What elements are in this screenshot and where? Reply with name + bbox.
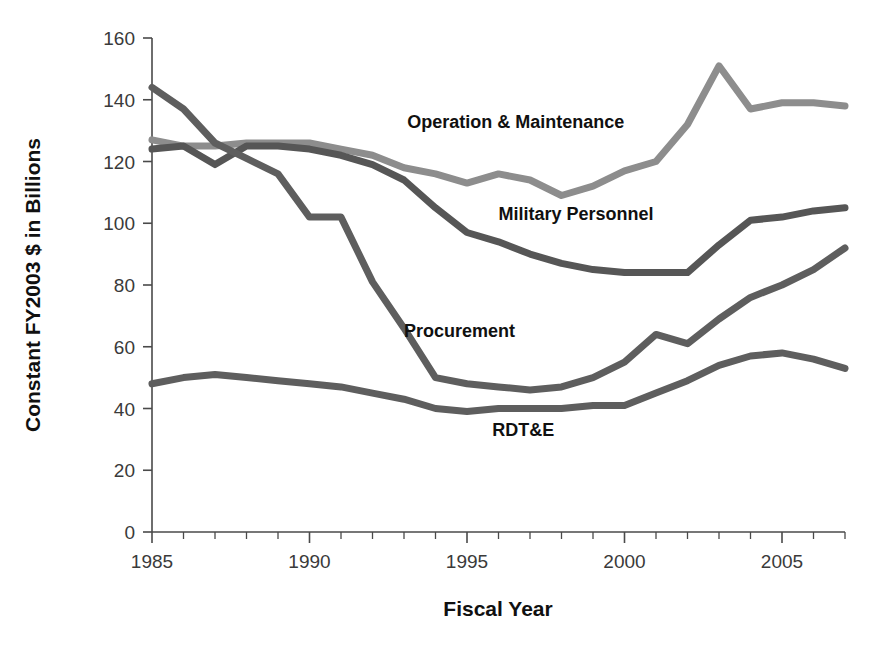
- y-tick-label: 100: [103, 213, 135, 234]
- chart-container: 0204060801001201401601985199019952000200…: [0, 0, 872, 652]
- x-tick-label: 1995: [446, 551, 488, 572]
- series-label: Procurement: [404, 321, 515, 341]
- series-label: RDT&E: [492, 420, 554, 440]
- y-axis-title: Constant FY2003 $ in Billions: [21, 138, 44, 432]
- x-tick-label: 2005: [761, 551, 803, 572]
- y-tick-label: 160: [103, 28, 135, 49]
- y-tick-label: 60: [114, 337, 135, 358]
- y-tick-label: 120: [103, 152, 135, 173]
- y-tick-label: 40: [114, 399, 135, 420]
- x-axis-title: Fiscal Year: [443, 597, 552, 620]
- y-tick-label: 20: [114, 460, 135, 481]
- y-tick-label: 140: [103, 90, 135, 111]
- x-tick-label: 1990: [288, 551, 330, 572]
- series-label: Military Personnel: [499, 204, 654, 224]
- series-label: Operation & Maintenance: [407, 112, 624, 132]
- x-tick-label: 2000: [603, 551, 645, 572]
- series-line: [152, 353, 845, 412]
- y-tick-label: 0: [124, 522, 135, 543]
- y-tick-label: 80: [114, 275, 135, 296]
- x-tick-label: 1985: [131, 551, 173, 572]
- defense-budget-line-chart: 0204060801001201401601985199019952000200…: [0, 0, 872, 652]
